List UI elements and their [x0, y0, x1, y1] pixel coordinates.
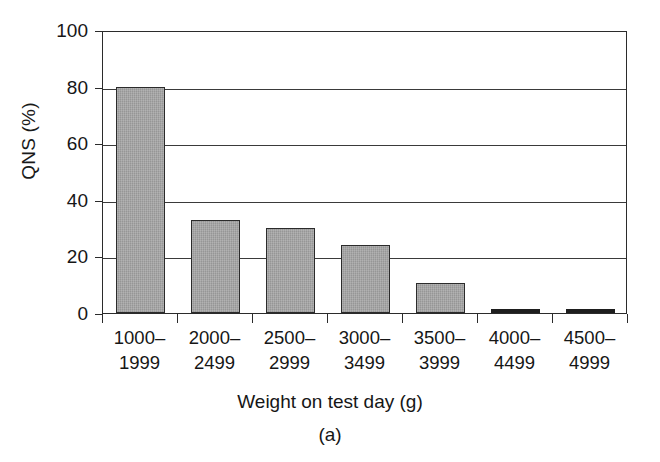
- x-axis-tick-label: 2000–2499: [176, 325, 254, 375]
- x-axis-tick-label: 4000–4499: [476, 325, 554, 375]
- x-axis-tick-label-line: 3999: [401, 350, 479, 375]
- x-axis-title: Weight on test day (g): [0, 391, 660, 413]
- y-axis-tick-label: 0: [14, 303, 88, 325]
- x-axis-tick-label-line: 2999: [251, 350, 329, 375]
- x-axis-tick: [327, 314, 328, 323]
- x-axis-tick: [552, 314, 553, 323]
- bar-4500-4999: [566, 309, 614, 313]
- y-axis-tick: [95, 31, 103, 32]
- x-axis-tick-label-line: 3500–: [401, 325, 479, 350]
- plot-area: [102, 31, 627, 314]
- bar-2000-2499: [191, 220, 239, 313]
- x-axis-tick: [177, 314, 178, 323]
- bar-1000-1999: [116, 87, 164, 313]
- y-axis-tick: [95, 144, 103, 145]
- x-axis-tick-label-line: 4999: [551, 350, 629, 375]
- gridline: [103, 202, 626, 203]
- bar-chart-figure: QNS (%) 020406080100 Weight on test day …: [0, 0, 660, 462]
- x-axis-tick-label-line: 4500–: [551, 325, 629, 350]
- y-axis-tick: [95, 257, 103, 258]
- x-axis-tick-label-line: 3000–: [326, 325, 404, 350]
- x-axis-tick-label: 3000–3499: [326, 325, 404, 375]
- figure-caption: (a): [0, 424, 660, 446]
- x-axis-tick-label-line: 1000–: [101, 325, 179, 350]
- x-axis-tick: [627, 314, 628, 323]
- bar-4000-4499: [491, 309, 539, 313]
- y-axis-tick: [95, 88, 103, 89]
- x-axis-tick: [252, 314, 253, 323]
- x-axis-tick-label: 1000–1999: [101, 325, 179, 375]
- y-axis-tick-label: 40: [14, 190, 88, 212]
- x-axis-tick-label-line: 3499: [326, 350, 404, 375]
- x-axis-tick-label: 2500–2999: [251, 325, 329, 375]
- x-axis-tick: [477, 314, 478, 323]
- bar-3000-3499: [341, 245, 389, 313]
- x-axis-tick-label-line: 4000–: [476, 325, 554, 350]
- gridline: [103, 145, 626, 146]
- x-axis-tick-label: 3500–3999: [401, 325, 479, 375]
- bar-3500-3999: [416, 283, 464, 313]
- y-axis-tick-label: 20: [14, 246, 88, 268]
- bar-2500-2999: [266, 228, 314, 313]
- x-axis-tick-label-line: 2499: [176, 350, 254, 375]
- gridline: [103, 89, 626, 90]
- x-axis-tick: [102, 314, 103, 323]
- y-axis-tick-label: 60: [14, 133, 88, 155]
- x-axis-tick-label-line: 2500–: [251, 325, 329, 350]
- y-axis-tick-label: 80: [14, 77, 88, 99]
- x-axis-tick-label: 4500–4999: [551, 325, 629, 375]
- x-axis-tick-label-line: 4499: [476, 350, 554, 375]
- x-axis-tick-label-line: 2000–: [176, 325, 254, 350]
- x-axis-tick-label-line: 1999: [101, 350, 179, 375]
- y-axis-tick: [95, 201, 103, 202]
- x-axis-tick: [402, 314, 403, 323]
- y-axis-tick-label: 100: [14, 20, 88, 42]
